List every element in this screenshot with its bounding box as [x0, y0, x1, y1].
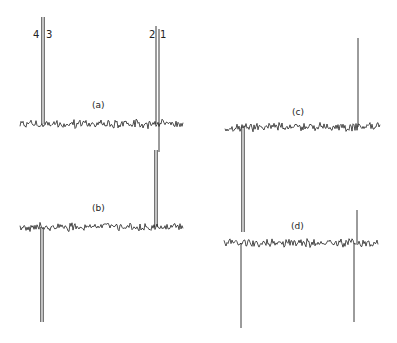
peak-label-2: 2	[149, 30, 155, 40]
spectrum-label-d: (d)	[291, 222, 304, 231]
peak-label-3: 3	[46, 30, 52, 40]
peak-label-1: 1	[160, 30, 166, 40]
nmr-spectra-figure	[0, 0, 397, 343]
peak-label-4: 4	[33, 30, 39, 40]
spectrum-trace	[224, 239, 378, 248]
spectrum-trace	[225, 122, 380, 131]
spectrum-label-c: (c)	[292, 108, 304, 117]
spectrum-label-b: (b)	[92, 204, 105, 213]
spectrum-trace	[20, 222, 183, 231]
spectrum-label-a: (a)	[92, 101, 105, 110]
